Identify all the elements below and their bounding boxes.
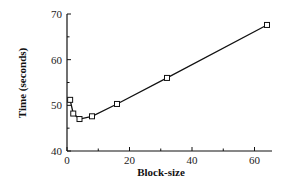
- data-point-marker: [90, 114, 95, 119]
- x-tick-label: 20: [124, 154, 136, 166]
- data-point-marker: [165, 75, 170, 80]
- line-chart: 020406040506070 Block-size Time (seconds…: [0, 0, 283, 187]
- plot-area: [68, 22, 270, 121]
- data-point-marker: [115, 101, 120, 106]
- y-tick-label: 40: [51, 145, 63, 157]
- y-axis-title: Time (seconds): [16, 47, 29, 118]
- data-point-marker: [71, 111, 76, 116]
- y-tick-label: 70: [51, 8, 63, 20]
- y-tick-label: 50: [51, 99, 63, 111]
- x-tick-label: 40: [187, 154, 199, 166]
- y-tick-label: 60: [51, 54, 63, 66]
- axes: 020406040506070: [51, 8, 272, 166]
- x-axis-title: Block-size: [137, 166, 185, 178]
- data-point-marker: [77, 117, 82, 122]
- data-point-marker: [68, 97, 73, 102]
- x-tick-label: 60: [249, 154, 261, 166]
- x-tick-label: 0: [64, 154, 70, 166]
- series-line: [70, 25, 267, 119]
- data-point-marker: [265, 22, 270, 27]
